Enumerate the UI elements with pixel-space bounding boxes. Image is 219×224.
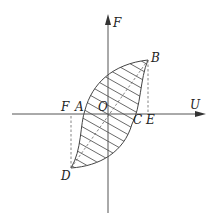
origin-label: O — [98, 100, 108, 114]
point-a-label: A — [74, 100, 84, 114]
hysteresis-diagram: F U O B A F C E D — [0, 0, 219, 224]
point-c-label: C — [133, 113, 142, 127]
point-d-label: D — [60, 169, 71, 183]
u-axis-label: U — [190, 98, 201, 112]
point-e-label: E — [145, 113, 155, 127]
point-b-label: B — [150, 51, 160, 65]
f-axis-label: F — [112, 16, 122, 30]
point-f-label: F — [60, 100, 70, 114]
f-axis-arrow-icon — [105, 14, 111, 25]
